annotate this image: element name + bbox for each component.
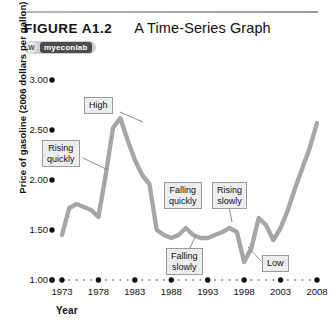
y-axis-label: Price of gasoline (2006 dollars per gall… bbox=[17, 0, 28, 204]
chart-annotation-callout: Rising slowly bbox=[212, 182, 247, 209]
chart-annotation-callout: Falling quickly bbox=[164, 182, 202, 209]
figure-container: FIGURE A1.2 A Time-Series Graph W myecon… bbox=[0, 0, 336, 335]
x-axis-tick-label: 1998 bbox=[227, 286, 261, 297]
chart-annotation-callout: Falling slowly bbox=[166, 248, 203, 275]
chart-annotation-callout: Rising quickly bbox=[42, 140, 80, 167]
y-axis-tick-label: 2.50 bbox=[14, 124, 48, 135]
chart-annotation-callout: High bbox=[84, 97, 113, 114]
y-axis-tick-label: 3.00 bbox=[14, 74, 48, 85]
y-axis-tick-label: 1.50 bbox=[14, 224, 48, 235]
time-series-svg bbox=[0, 0, 336, 335]
x-axis-tick-label: 1983 bbox=[118, 286, 152, 297]
chart-annotation-callout: Low bbox=[262, 255, 289, 272]
x-axis-tick-label: 1978 bbox=[81, 286, 115, 297]
chart-plot-area: Price of gasoline (2006 dollars per gall… bbox=[0, 0, 336, 335]
x-axis-label: Year bbox=[56, 305, 78, 316]
x-axis-tick-label: 1993 bbox=[191, 286, 225, 297]
x-axis-tick-label: 2003 bbox=[264, 286, 298, 297]
x-axis-tick-label: 1988 bbox=[154, 286, 188, 297]
y-axis-tick-label: 2.00 bbox=[14, 174, 48, 185]
x-axis-tick-label: 2008 bbox=[300, 286, 334, 297]
x-axis-tick-label: 1973 bbox=[45, 286, 79, 297]
y-axis-tick-label: 1.00 bbox=[14, 274, 48, 285]
